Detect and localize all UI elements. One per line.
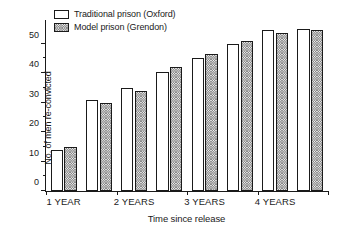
bar-traditional	[227, 44, 239, 191]
bar-model	[135, 91, 147, 191]
bar-traditional	[297, 29, 309, 191]
bar-traditional	[51, 150, 63, 191]
bar-chart-figure: Traditional prison (Oxford) Model prison…	[0, 0, 338, 235]
bars-container	[46, 20, 328, 191]
x-axis-tick	[46, 191, 47, 195]
x-axis-tick	[258, 191, 259, 195]
legend-item-label: Model prison (Grendon)	[74, 22, 167, 32]
y-axis-tick-label: 50	[29, 30, 39, 39]
bar-traditional	[121, 88, 133, 191]
y-axis-tick-label: 0	[34, 178, 39, 187]
bar-traditional	[86, 100, 98, 191]
y-axis-tick-label: 40	[29, 60, 39, 69]
chart-legend: Traditional prison (Oxford) Model prison…	[54, 8, 176, 34]
x-axis-group-label: 1 YEAR	[47, 197, 81, 207]
bar-model	[64, 147, 76, 191]
x-axis-group-label: 3 YEARS	[184, 197, 225, 207]
bar-model	[241, 41, 253, 191]
bar-model	[276, 33, 288, 191]
legend-item-traditional: Traditional prison (Oxford)	[54, 8, 176, 20]
plot-area: 01020304050 1 YEAR2 YEARS3 YEARS4 YEARS	[45, 20, 328, 192]
x-axis-tick	[117, 191, 118, 195]
x-axis-group-label: 2 YEARS	[114, 197, 155, 207]
x-axis-title: Time since release	[45, 213, 328, 224]
x-axis-tick	[187, 191, 188, 195]
y-axis-tick-label: 20	[29, 119, 39, 128]
bar-model	[100, 103, 112, 191]
bar-traditional	[262, 30, 274, 191]
bar-traditional	[192, 58, 204, 191]
legend-item-label: Traditional prison (Oxford)	[74, 9, 176, 19]
y-axis-tick-label: 30	[29, 89, 39, 98]
y-axis-tick-label: 10	[29, 148, 39, 157]
x-axis-group-label: 4 YEARS	[255, 197, 296, 207]
bar-model	[311, 30, 323, 191]
white-square-icon	[54, 10, 69, 19]
x-axis-tick	[328, 191, 329, 195]
bar-model	[170, 67, 182, 191]
legend-item-model: Model prison (Grendon)	[54, 21, 176, 33]
hatched-square-icon	[54, 23, 69, 32]
bar-traditional	[156, 72, 168, 191]
bar-model	[205, 54, 217, 191]
